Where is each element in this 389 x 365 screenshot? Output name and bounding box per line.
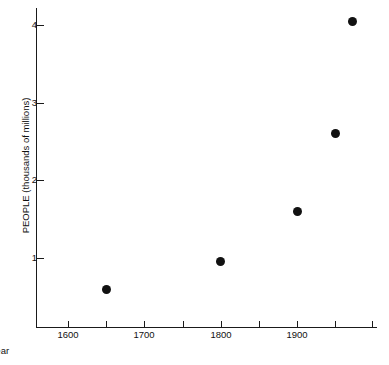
y-tick-group: 1 — [0, 258, 37, 259]
y-tick-group: 2 — [0, 180, 37, 181]
y-tick-label: 4 — [21, 20, 37, 30]
x-tick-label: 1800 — [201, 330, 241, 340]
x-minor-tick-mark — [372, 321, 373, 327]
x-tick-mark — [297, 321, 298, 327]
x-tick-label: 1700 — [124, 330, 164, 340]
population-scatter-chart: 4 3 2 1 1600 1700 1800 1900 Year PEOPLE … — [0, 0, 389, 365]
data-point — [216, 257, 225, 266]
x-tick-mark — [68, 321, 69, 327]
x-tick-label: 1600 — [48, 330, 88, 340]
x-minor-tick-mark — [106, 321, 107, 327]
x-axis-title: Year — [0, 345, 389, 356]
x-minor-tick-mark — [335, 321, 336, 327]
y-tick-mark — [37, 258, 44, 259]
x-tick-label: 1900 — [277, 330, 317, 340]
y-axis-line — [36, 8, 37, 328]
y-tick-mark — [37, 180, 44, 181]
data-point — [293, 207, 302, 216]
data-point — [348, 17, 357, 26]
x-minor-tick-mark — [183, 321, 184, 327]
y-tick-group: 4 — [0, 25, 37, 26]
x-tick-mark — [221, 321, 222, 327]
y-tick-mark — [37, 25, 44, 26]
data-point — [331, 129, 340, 138]
data-point — [102, 285, 111, 294]
y-tick-group: 3 — [0, 103, 37, 104]
x-minor-tick-mark — [259, 321, 260, 327]
y-axis-title: PEOPLE (thousands of millions) — [20, 56, 31, 276]
x-axis-title-text: Year — [0, 345, 9, 356]
y-tick-mark — [37, 103, 44, 104]
x-axis-line — [36, 327, 377, 328]
x-tick-mark — [144, 321, 145, 327]
